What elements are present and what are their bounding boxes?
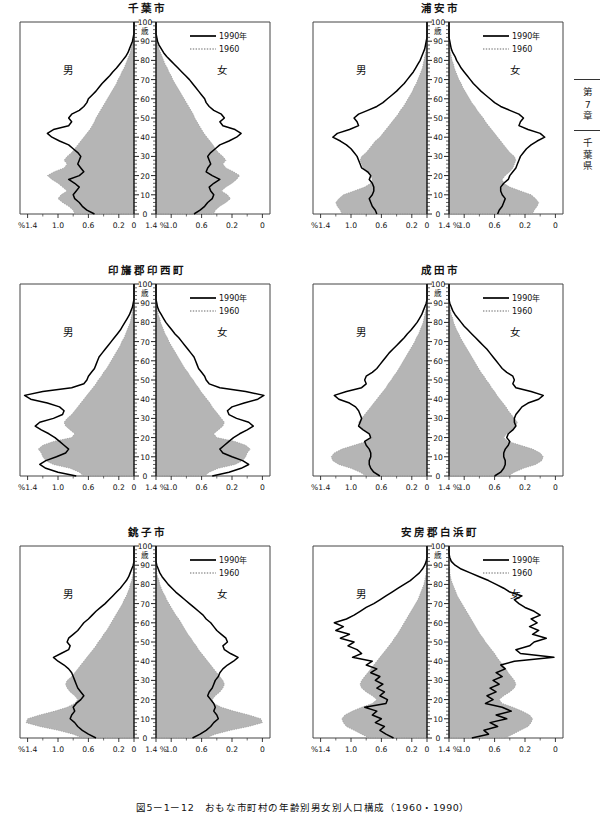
- age-label-10: 10: [433, 715, 443, 724]
- x-label-right-0: 0: [260, 745, 265, 754]
- age-label-90: 90: [140, 561, 150, 570]
- x-label-left-0: %1.4: [18, 745, 37, 754]
- age-label-20: 20: [140, 172, 150, 181]
- age-label-40: 40: [140, 133, 150, 142]
- x-label-left-4: 0: [425, 745, 430, 754]
- x-label-right-1: 0.2: [519, 745, 531, 754]
- legend-label-1990: 1990年: [219, 31, 247, 41]
- age-axis-unit: 歳: [141, 550, 149, 560]
- legend-label-1960: 1960: [512, 307, 532, 316]
- age-label-70: 70: [433, 338, 443, 347]
- female-label: 女: [510, 64, 520, 76]
- age-label-100: 100: [431, 18, 446, 27]
- series-area-female-1960: [156, 546, 262, 738]
- age-label-0: 0: [143, 472, 148, 481]
- chart-plot-inba-gun-inzai-machi: 0102030405060708090100歳男女1990年1960%1.401…: [6, 278, 284, 516]
- age-label-20: 20: [433, 696, 443, 705]
- age-label-0: 0: [143, 210, 148, 219]
- age-label-70: 70: [140, 76, 150, 85]
- legend-label-1960: 1960: [512, 569, 532, 578]
- age-label-80: 80: [140, 318, 150, 327]
- x-label-left-0: %1.4: [18, 483, 37, 492]
- x-label-left-3: 0.2: [113, 483, 125, 492]
- pyramid-svg-chiba-shi: 0102030405060708090100歳男女1990年1960%1.401…: [6, 16, 284, 254]
- age-label-70: 70: [433, 76, 443, 85]
- age-label-20: 20: [433, 172, 443, 181]
- age-label-20: 20: [140, 696, 150, 705]
- age-label-10: 10: [433, 191, 443, 200]
- pyramid-svg-narita-shi: 0102030405060708090100歳男女1990年1960%1.401…: [299, 278, 577, 516]
- male-label: 男: [356, 326, 366, 338]
- age-label-70: 70: [433, 600, 443, 609]
- age-label-40: 40: [433, 657, 443, 666]
- age-label-100: 100: [138, 280, 153, 289]
- series-area-male-1960: [47, 22, 134, 214]
- pyramid-svg-choshi-shi: 0102030405060708090100歳男女1990年1960%1.401…: [6, 540, 284, 778]
- pyramid-svg-inba-gun-inzai-machi: 0102030405060708090100歳男女1990年1960%1.401…: [6, 278, 284, 516]
- x-label-right-2: 0.6: [196, 221, 208, 230]
- chart-title-chiba-shi: 千葉市: [8, 0, 286, 16]
- age-label-100: 100: [138, 542, 153, 551]
- age-label-40: 40: [433, 133, 443, 142]
- age-label-0: 0: [436, 472, 441, 481]
- age-label-20: 20: [140, 434, 150, 443]
- age-label-40: 40: [140, 395, 150, 404]
- pyramid-svg-urayasu-shi: 0102030405060708090100歳男女1990年1960%1.401…: [299, 16, 577, 254]
- legend-label-1960: 1960: [512, 45, 532, 54]
- female-label: 女: [217, 64, 227, 76]
- x-label-left-4: 0: [132, 483, 137, 492]
- series-area-male-1960: [331, 284, 427, 476]
- age-label-10: 10: [433, 453, 443, 462]
- age-label-80: 80: [433, 580, 443, 589]
- x-label-right-1: 0.2: [519, 221, 531, 230]
- x-label-right-0: 0: [260, 483, 265, 492]
- x-label-left-2: 0.6: [82, 745, 94, 754]
- age-label-50: 50: [433, 114, 443, 123]
- age-axis-unit: 歳: [434, 550, 442, 560]
- age-label-90: 90: [433, 561, 443, 570]
- x-label-left-1: 1.0: [345, 483, 357, 492]
- age-label-90: 90: [433, 37, 443, 46]
- x-label-right-1: 0.2: [226, 745, 238, 754]
- age-label-100: 100: [138, 18, 153, 27]
- x-label-right-3: 1.0: [165, 221, 177, 230]
- age-label-10: 10: [140, 453, 150, 462]
- age-axis-unit: 歳: [434, 288, 442, 298]
- male-label: 男: [63, 588, 73, 600]
- x-label-right-4: 1.4 %: [145, 221, 167, 230]
- x-label-right-4: 1.4 %: [438, 483, 460, 492]
- chart-title-choshi-shi: 銚子市: [8, 524, 286, 540]
- x-label-right-2: 0.6: [489, 221, 501, 230]
- legend-label-1960: 1960: [219, 45, 239, 54]
- age-label-30: 30: [140, 676, 150, 685]
- x-label-right-3: 1.0: [165, 483, 177, 492]
- legend-label-1990: 1990年: [512, 293, 540, 303]
- x-label-right-4: 1.4 %: [438, 745, 460, 754]
- age-label-80: 80: [140, 580, 150, 589]
- chart-cell-awa-gun-shirahama-machi: 安房郡白浜町0102030405060708090100歳男女1990年1960…: [293, 524, 579, 782]
- male-label: 男: [63, 326, 73, 338]
- series-area-male-1960: [26, 546, 134, 738]
- age-label-100: 100: [431, 542, 446, 551]
- chart-plot-awa-gun-shirahama-machi: 0102030405060708090100歳男女1990年1960%1.401…: [299, 540, 577, 778]
- margin-chapter-label: 第7章: [582, 87, 592, 123]
- x-label-right-3: 1.0: [458, 483, 470, 492]
- legend-label-1960: 1960: [219, 307, 239, 316]
- chart-cell-choshi-shi: 銚子市0102030405060708090100歳男女1990年1960%1.…: [0, 524, 286, 782]
- chart-title-inba-gun-inzai-machi: 印旛郡印西町: [8, 262, 286, 278]
- x-label-right-0: 0: [553, 221, 558, 230]
- age-label-60: 60: [140, 619, 150, 628]
- x-label-left-0: %1.4: [18, 221, 37, 230]
- age-axis-unit: 歳: [141, 26, 149, 36]
- x-label-left-3: 0.2: [406, 483, 418, 492]
- x-label-left-3: 0.2: [406, 221, 418, 230]
- x-label-right-3: 1.0: [165, 745, 177, 754]
- age-label-70: 70: [140, 600, 150, 609]
- x-label-right-4: 1.4 %: [145, 483, 167, 492]
- age-label-60: 60: [433, 357, 443, 366]
- age-label-30: 30: [433, 414, 443, 423]
- figure-caption: 図5ー1ー12 おもな市町村の年齢別男女別人口構成（1960・1990）: [0, 800, 606, 814]
- age-label-90: 90: [433, 299, 443, 308]
- chart-cell-narita-shi: 成田市0102030405060708090100歳男女1990年1960%1.…: [293, 262, 579, 520]
- x-label-right-4: 1.4 %: [145, 745, 167, 754]
